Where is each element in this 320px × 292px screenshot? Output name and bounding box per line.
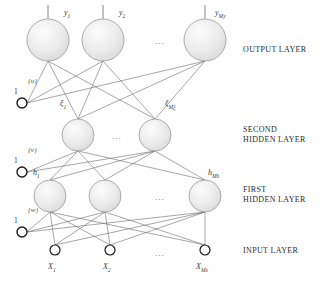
- connection-edge: [78, 151, 105, 180]
- input-node-x2: [105, 245, 115, 255]
- label-y1: y1: [64, 8, 70, 19]
- connection-edge: [78, 61, 205, 119]
- ellipsis-output-layer: ...: [155, 36, 165, 46]
- neuron-y1: [27, 19, 69, 61]
- label-y2: y2: [119, 8, 125, 19]
- label-h1: h1: [33, 168, 40, 179]
- label-hMh: hMh: [208, 168, 219, 179]
- connection-edge: [50, 212, 55, 245]
- connection-edge: [27, 61, 205, 103]
- neuron-xiMxi: [139, 119, 171, 151]
- caption-input-layer: INPUT LAYER: [243, 246, 298, 256]
- connection-edge: [27, 212, 205, 232]
- label-xMx: XMx: [196, 262, 208, 273]
- caption-second-hidden-layer: SECOND HIDDEN LAYER: [243, 125, 306, 145]
- connection-edge: [48, 61, 78, 119]
- connection-edge: [155, 151, 205, 180]
- weight-set-output-layer: {u}: [28, 77, 37, 85]
- bias-node-output-layer: [17, 98, 27, 108]
- connection-edge: [78, 151, 205, 180]
- neuron-h1: [34, 180, 66, 212]
- ellipsis-first-hidden-layer: ...: [155, 192, 165, 202]
- connection-edge: [50, 151, 78, 180]
- connection-edge: [155, 61, 205, 119]
- neuron-hmid: [89, 180, 121, 212]
- connection-edge: [27, 61, 103, 103]
- bias-node-second-hidden-layer: [17, 167, 27, 177]
- connection-edge: [48, 61, 155, 119]
- bias-value-output-layer: 1: [14, 87, 18, 96]
- neuron-yMy: [184, 19, 226, 61]
- label-xi1: ξ1: [60, 99, 66, 110]
- bias-node-first-hidden-layer: [17, 227, 27, 237]
- label-xiMxi: ξMξ: [165, 99, 175, 110]
- input-node-x1: [50, 245, 60, 255]
- weight-set-second-hidden-layer: {v}: [28, 146, 37, 154]
- bias-value-second-hidden-layer: 1: [14, 156, 18, 165]
- label-x2: X2: [103, 262, 111, 273]
- input-node-xMx: [200, 245, 210, 255]
- weight-set-first-hidden-layer: {w}: [28, 206, 38, 214]
- caption-first-hidden-layer: FIRST HIDDEN LAYER: [243, 185, 306, 205]
- ellipsis-input-layer: ...: [155, 248, 165, 258]
- ellipsis-second-hidden-layer: ...: [112, 131, 122, 141]
- label-x1: X1: [48, 262, 56, 273]
- neuron-y2: [82, 19, 124, 61]
- caption-output-layer: OUTPUT LAYER: [243, 45, 307, 55]
- bias-value-first-hidden-layer: 1: [14, 216, 18, 225]
- connection-edge: [103, 61, 155, 119]
- label-yMy: yMy: [215, 8, 226, 19]
- neuron-hMh: [189, 180, 221, 212]
- neural-network-diagram: OUTPUT LAYER SECOND HIDDEN LAYER FIRST H…: [0, 0, 320, 292]
- neuron-xi1: [62, 119, 94, 151]
- connection-edge: [105, 212, 110, 245]
